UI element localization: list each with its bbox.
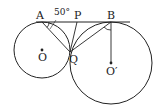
segment-aq (42, 22, 70, 52)
label-q: Q (69, 53, 78, 66)
angle-arc-b (104, 27, 111, 30)
geometry-diagram: A 50° P B Q O O′ (0, 0, 165, 109)
label-o: O (38, 51, 47, 64)
center-dot-o-prime (110, 62, 113, 65)
label-a: A (35, 9, 45, 22)
label-p: P (74, 9, 82, 22)
label-angle-50: 50° (54, 7, 70, 17)
angle-pointer (50, 20, 56, 29)
label-o-prime: O′ (106, 65, 118, 78)
label-b: B (107, 9, 115, 22)
